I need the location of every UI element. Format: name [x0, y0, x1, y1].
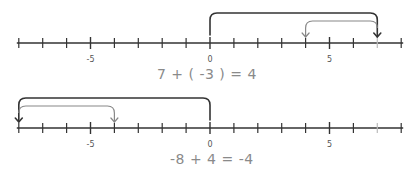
number-line-diagrams: -505 -505 — [0, 0, 417, 173]
tick-label: 0 — [207, 140, 212, 149]
jump-arc — [19, 106, 115, 122]
equation-1: 7 + ( -3 ) = 4 — [157, 66, 257, 82]
number-line-1: -505 — [17, 13, 403, 64]
tick-label: -5 — [87, 55, 95, 64]
tick-label: 5 — [327, 140, 332, 149]
jump-arc — [210, 13, 377, 37]
number-line-2: -505 — [15, 98, 403, 149]
tick-label: -5 — [87, 140, 95, 149]
tick-label: 5 — [327, 55, 332, 64]
tick-label: 0 — [207, 55, 212, 64]
equation-2: -8 + 4 = -4 — [170, 151, 254, 167]
jump-arc — [306, 21, 378, 37]
